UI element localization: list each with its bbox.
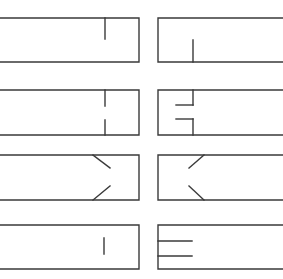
row1-right-box [158, 18, 283, 62]
interior-mark [189, 186, 204, 200]
box-outline [0, 225, 139, 269]
box-outline [158, 225, 283, 269]
row2-right-box [158, 90, 283, 135]
box-outline [0, 18, 139, 62]
diagram-canvas [0, 0, 283, 279]
row1-left-box [0, 18, 139, 62]
box-outline [0, 90, 139, 135]
interior-mark [93, 186, 110, 200]
box-outline [158, 18, 283, 62]
row4-left-box [0, 225, 139, 269]
interior-mark [189, 155, 204, 168]
row3-left-box [0, 155, 139, 200]
row4-right-box [158, 225, 283, 269]
box-outline [158, 90, 283, 135]
box-outline [0, 155, 139, 200]
box-outline [158, 155, 283, 200]
interior-mark [93, 155, 110, 168]
row2-left-box [0, 90, 139, 135]
row3-right-box [158, 155, 283, 200]
